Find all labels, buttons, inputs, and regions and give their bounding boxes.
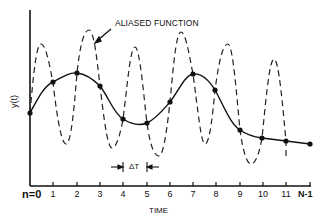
last-sample-label: N-1 bbox=[298, 190, 313, 199]
sample-point bbox=[212, 87, 217, 92]
sample-point bbox=[237, 127, 242, 132]
aliasing-diagram: ALIASED FUNCTION y(t) TIME ΔT n=0 N-1 1 … bbox=[0, 0, 323, 219]
sample-point bbox=[120, 116, 125, 121]
sample-point bbox=[144, 120, 149, 125]
x-tick-label: 11 bbox=[281, 190, 290, 199]
sample-point bbox=[307, 141, 312, 146]
x-tick-label: 4 bbox=[120, 190, 125, 199]
x-tick-label: 6 bbox=[167, 190, 172, 199]
aliased-function-label: ALIASED FUNCTION bbox=[115, 19, 199, 28]
sample-point bbox=[167, 99, 172, 104]
sample-point bbox=[74, 70, 79, 75]
x-axis-label: TIME bbox=[149, 207, 168, 215]
origin-label: n=0 bbox=[22, 189, 41, 200]
x-tick-label: 8 bbox=[213, 190, 218, 199]
x-tick-label: 1 bbox=[50, 190, 55, 199]
x-tick-label: 3 bbox=[97, 190, 102, 199]
delta-t-label: ΔT bbox=[129, 163, 139, 171]
sample-point bbox=[50, 79, 55, 84]
x-tick-label: 10 bbox=[258, 190, 268, 199]
annotation-arrow-icon bbox=[95, 29, 111, 43]
x-tick-label: 7 bbox=[190, 190, 195, 199]
sample-point bbox=[97, 83, 102, 88]
plot-canvas bbox=[0, 0, 323, 219]
sample-point bbox=[190, 71, 195, 76]
x-tick-label: 5 bbox=[144, 190, 149, 199]
x-tick-label: 9 bbox=[237, 190, 242, 199]
y-axis-label: y(t) bbox=[10, 95, 19, 108]
aliased-function-curve bbox=[30, 30, 286, 164]
sample-point bbox=[259, 135, 264, 140]
x-tick-label: 2 bbox=[74, 190, 79, 199]
sample-point bbox=[27, 110, 32, 115]
sample-point bbox=[283, 138, 288, 143]
